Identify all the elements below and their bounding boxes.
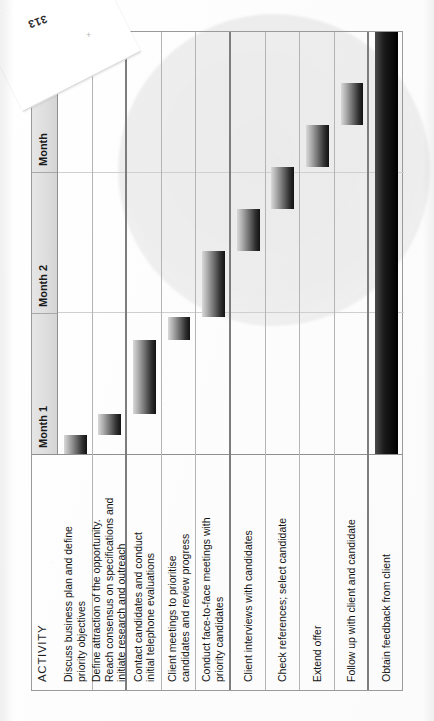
table-row: Contact candidates and conductinitial te… bbox=[127, 32, 162, 690]
gantt-bar bbox=[133, 340, 156, 414]
table-row: Obtain feedback from client bbox=[369, 32, 404, 690]
timeline-track bbox=[58, 32, 92, 454]
gantt-bar bbox=[98, 413, 121, 434]
month-gridline bbox=[93, 312, 126, 313]
activity-column-title: ACTIVITY bbox=[36, 624, 48, 681]
table-row: Discuss business plan and definepriority… bbox=[58, 32, 93, 690]
activity-label: Conduct face-to-face meetings withpriori… bbox=[196, 458, 229, 682]
month-gridline bbox=[266, 312, 300, 313]
activity-label-line: Extend offer bbox=[311, 462, 323, 682]
activity-label: Extend offer bbox=[300, 458, 334, 682]
timeline-track bbox=[127, 32, 161, 454]
month-gridline bbox=[127, 312, 161, 313]
activity-header-cell: ACTIVITY bbox=[32, 455, 58, 690]
month-gridline bbox=[162, 171, 196, 172]
activity-label: Follow up with client and candidate bbox=[335, 458, 368, 682]
activity-label-line: initiate research and outreach bbox=[115, 462, 127, 682]
timeline-track bbox=[162, 32, 196, 454]
table-row: Follow up with client and candidate bbox=[335, 32, 370, 690]
activity-label: Contact candidates and conductinitial te… bbox=[127, 458, 161, 682]
activity-label-line: Reach consensus on specifications and bbox=[103, 462, 115, 682]
gantt-bar bbox=[237, 209, 260, 251]
timeline-track bbox=[196, 32, 229, 454]
gantt-bar bbox=[271, 167, 294, 209]
month-gridline bbox=[93, 171, 126, 172]
month-gridline bbox=[58, 312, 92, 313]
timeline-track bbox=[266, 32, 300, 454]
table-row: Client meetings to prioritisecandidates … bbox=[162, 32, 197, 690]
scanned-page: ACTIVITY Month 1 Month 2 Month Discuss b… bbox=[0, 0, 434, 721]
timeline-track bbox=[300, 32, 334, 454]
timeline-track bbox=[93, 32, 126, 454]
activity-label-line: priority objectives bbox=[75, 462, 87, 682]
activity-label-line: priority candidates bbox=[213, 462, 225, 682]
activity-label-line: Client meetings to prioritise bbox=[166, 462, 178, 682]
activity-label-line: Contact candidates and conduct bbox=[132, 462, 144, 682]
gantt-bar bbox=[202, 251, 225, 316]
month-gridline bbox=[231, 171, 265, 172]
month-gridline bbox=[231, 312, 265, 313]
activity-label-line: Follow up with client and candidate bbox=[345, 462, 357, 682]
activity-label: Discuss business plan and definepriority… bbox=[58, 458, 92, 682]
gantt-table: ACTIVITY Month 1 Month 2 Month Discuss b… bbox=[31, 31, 403, 691]
activity-label-line: candidates and review progress bbox=[179, 462, 191, 682]
table-row: Define attraction of the opportunity.Rea… bbox=[93, 32, 128, 690]
table-row: Conduct face-to-face meetings withpriori… bbox=[196, 32, 231, 690]
month-gridline bbox=[300, 171, 334, 172]
activity-label: Obtain feedback from client bbox=[369, 458, 404, 682]
table-row: Check references; select candidate bbox=[266, 32, 301, 690]
table-row: Client interviews with candidates bbox=[231, 32, 266, 690]
activity-label-line: Obtain feedback from client bbox=[380, 462, 392, 682]
activity-label-line: Discuss business plan and define bbox=[62, 462, 74, 682]
month-gridline bbox=[335, 171, 368, 172]
month-gridline bbox=[162, 312, 196, 313]
month-gridline bbox=[335, 312, 368, 313]
activity-label-line: initial telephone evaluations bbox=[144, 462, 156, 682]
month-header-2: Month 2 bbox=[32, 172, 57, 313]
gantt-bar bbox=[306, 124, 329, 166]
gantt-bar bbox=[168, 316, 191, 339]
activity-label: Client meetings to prioritisecandidates … bbox=[162, 458, 196, 682]
gantt-bar bbox=[341, 82, 364, 124]
activity-label-line: Define attraction of the opportunity. bbox=[90, 462, 102, 682]
timeline-track bbox=[369, 32, 404, 454]
gantt-rows: Discuss business plan and definepriority… bbox=[58, 32, 402, 690]
activity-label-line: Check references; select candidate bbox=[276, 462, 288, 682]
activity-label: Check references; select candidate bbox=[266, 458, 300, 682]
gantt-bar bbox=[64, 435, 87, 454]
activity-label-line: Client interviews with candidates bbox=[242, 462, 254, 682]
registration-mark-icon: + bbox=[86, 30, 91, 40]
timeline-track bbox=[335, 32, 368, 454]
month-gridline bbox=[196, 171, 229, 172]
activity-label: Client interviews with candidates bbox=[231, 458, 265, 682]
month-gridline bbox=[127, 171, 161, 172]
gantt-chart-rotated-wrapper: ACTIVITY Month 1 Month 2 Month Discuss b… bbox=[31, 31, 403, 691]
month-gridline bbox=[300, 312, 334, 313]
activity-label: Define attraction of the opportunity.Rea… bbox=[93, 458, 126, 682]
activity-label-line: Conduct face-to-face meetings with bbox=[200, 462, 212, 682]
month-gridline bbox=[58, 171, 92, 172]
table-row: Extend offer bbox=[300, 32, 335, 690]
timeline-track bbox=[231, 32, 265, 454]
gantt-bar bbox=[375, 32, 398, 454]
month-header-1: Month 1 bbox=[32, 313, 57, 454]
